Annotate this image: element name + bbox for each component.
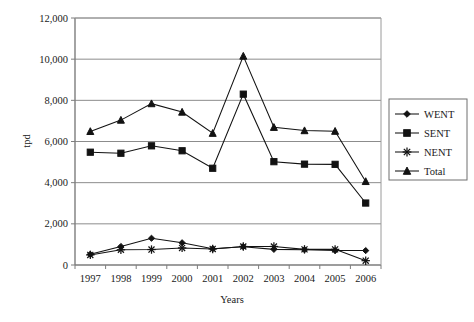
y-tick-label: 10,000: [39, 54, 68, 65]
x-tick-label: 2004: [294, 273, 316, 284]
data-point-square-marker: [118, 150, 124, 156]
y-tick-label: 8,000: [44, 95, 68, 106]
x-tick-label: 1999: [141, 273, 162, 284]
data-point-square-marker: [301, 161, 307, 167]
legend-label: SENT: [424, 128, 451, 139]
data-point-square-marker: [332, 161, 338, 167]
data-point-square-marker: [87, 149, 93, 155]
y-tick-label: 0: [63, 260, 68, 271]
x-tick-label: 2001: [202, 273, 223, 284]
legend-label: Total: [424, 166, 446, 177]
data-point-asterisk-marker: [86, 251, 94, 259]
data-point-square-marker: [210, 165, 216, 171]
data-point-asterisk-marker: [178, 244, 186, 252]
legend: WENTSENTNENTTotal: [389, 99, 467, 180]
data-point-asterisk-marker: [117, 246, 125, 254]
data-point-asterisk-marker: [147, 245, 155, 253]
data-point-square-marker: [148, 143, 154, 149]
y-tick-label: 12,000: [39, 13, 68, 24]
x-tick-label: 2002: [233, 273, 254, 284]
legend-label: NENT: [424, 147, 453, 158]
y-axis-title: tpd: [21, 134, 32, 148]
data-point-asterisk-marker: [209, 245, 217, 253]
legend-asterisk-marker: [403, 148, 412, 157]
data-point-asterisk-marker: [331, 245, 339, 253]
data-point-square-marker: [271, 159, 277, 165]
data-point-square-marker: [363, 200, 369, 206]
x-tick-label: 2006: [355, 273, 376, 284]
legend-label: WENT: [424, 109, 455, 120]
chart-figure: 12,00010,0008,0006,0004,0002,0000 199719…: [0, 0, 474, 322]
data-point-square-marker: [179, 148, 185, 154]
line-chart: 12,00010,0008,0006,0004,0002,0000 199719…: [0, 0, 474, 322]
y-tick-labels: 12,00010,0008,0006,0004,0002,0000: [39, 13, 68, 271]
x-tick-label: 1998: [110, 273, 131, 284]
data-point-asterisk-marker: [362, 256, 370, 264]
y-tick-label: 6,000: [44, 136, 68, 147]
x-axis-title: Years: [220, 294, 243, 305]
data-point-asterisk-marker: [270, 242, 278, 250]
legend-square-marker: [404, 130, 411, 137]
x-tick-label: 2000: [172, 273, 193, 284]
x-tick-label: 2005: [325, 273, 346, 284]
data-point-asterisk-marker: [239, 242, 247, 250]
data-point-square-marker: [240, 91, 246, 97]
y-tick-label: 4,000: [44, 177, 68, 188]
y-tick-label: 2,000: [44, 218, 68, 229]
x-tick-label: 2003: [263, 273, 284, 284]
x-tick-label: 1997: [80, 273, 101, 284]
data-point-asterisk-marker: [300, 245, 308, 253]
x-tick-labels: 1997199819992000200120022003200420052006: [80, 273, 376, 284]
